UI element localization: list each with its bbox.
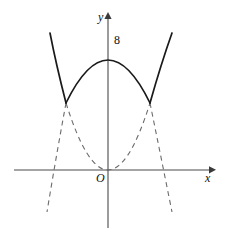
- y-axis-label: y: [98, 11, 103, 23]
- y-axis-arrow-icon: [104, 12, 111, 19]
- upward-parabola-solid-arm-right: [150, 33, 172, 103]
- origin-label: O: [96, 172, 105, 184]
- y-intercept-value-label: 8: [114, 34, 120, 46]
- downward-parabola-dashed-tail-left: [47, 103, 66, 212]
- x-axis-label: x: [205, 172, 210, 184]
- figure-canvas: [0, 0, 226, 241]
- parabola-figure: y x O 8: [0, 0, 226, 241]
- upward-parabola-solid-arm-left: [50, 33, 66, 103]
- downward-parabola-dashed-tail-right: [150, 103, 172, 212]
